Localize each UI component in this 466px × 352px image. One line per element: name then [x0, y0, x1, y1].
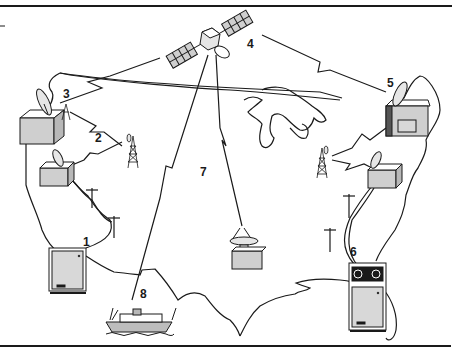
label-2: 2	[95, 132, 102, 144]
satellite-icon	[166, 10, 253, 68]
label-6: 6	[350, 246, 357, 258]
communications-diagram: 1 2 3 4 5 6 7 8	[0, 0, 466, 352]
earth-station-central-icon	[230, 228, 266, 269]
communication-links	[60, 35, 386, 300]
diagram-canvas	[0, 0, 466, 352]
computer-tape-drive-east-icon	[349, 263, 386, 331]
ship-icon	[106, 308, 176, 336]
computer-terminal-west-icon	[49, 248, 86, 293]
label-5: 5	[387, 77, 394, 89]
label-3: 3	[63, 88, 70, 100]
earth-station-small-west-icon	[40, 148, 74, 186]
link-7	[216, 55, 242, 226]
microwave-tower-icon	[127, 134, 138, 168]
telephone-poles-east-icon	[324, 194, 355, 252]
label-4: 4	[247, 38, 254, 50]
earth-station-west-icon	[20, 87, 64, 144]
label-7: 7	[200, 166, 207, 178]
telephone-poles-west-icon	[86, 188, 120, 238]
downlink-4-5	[262, 35, 386, 92]
earth-station-small-east-icon	[368, 150, 402, 188]
label-8: 8	[140, 288, 147, 300]
microwave-tower-east-icon	[317, 146, 328, 178]
link-to-ship	[132, 55, 208, 300]
label-1: 1	[83, 236, 90, 248]
